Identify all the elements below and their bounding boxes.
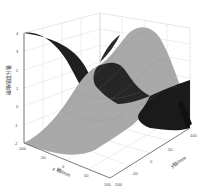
svg-text:0: 0 — [16, 104, 19, 109]
svg-text:1: 1 — [16, 86, 19, 91]
svg-text:3: 3 — [16, 49, 19, 54]
y-axis — [110, 128, 190, 178]
z-ticks: 4 3 2 1 0 -1 -2 — [14, 31, 19, 146]
svg-text:-100: -100 — [18, 146, 27, 151]
svg-text:0: 0 — [150, 159, 153, 164]
svg-text:-1: -1 — [14, 123, 18, 128]
svg-text:50: 50 — [84, 173, 89, 178]
z-axis-label: 磁场强度分量 — [5, 65, 12, 95]
svg-text:4: 4 — [16, 31, 19, 36]
svg-text:-100: -100 — [114, 182, 123, 187]
svg-text:-50: -50 — [40, 155, 47, 160]
y-axis-label: y轴/mm — [169, 155, 187, 170]
svg-text:2: 2 — [16, 68, 19, 73]
surface-chart: 4 3 2 1 0 -1 -2 磁场强度分量 -100 -50 0 50 100… — [0, 0, 223, 196]
x-axis-label: x 轴/mm — [51, 165, 71, 178]
svg-text:-50: -50 — [132, 171, 139, 176]
svg-text:100: 100 — [190, 133, 197, 138]
svg-text:50: 50 — [168, 147, 173, 152]
svg-text:100: 100 — [104, 182, 111, 187]
